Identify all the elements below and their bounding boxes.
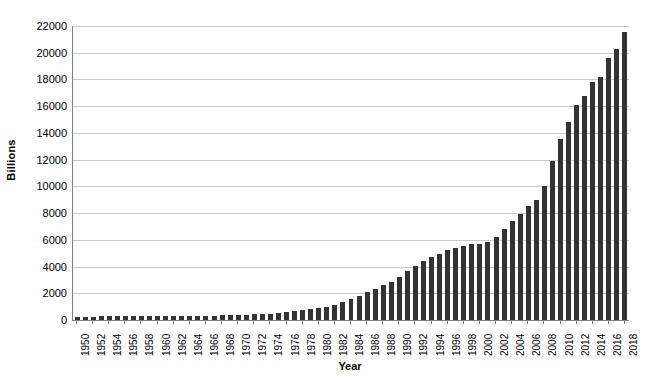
bar xyxy=(300,310,305,320)
y-axis-tick-label: 16000 xyxy=(36,100,67,112)
x-axis-tick-label: 1962 xyxy=(177,334,188,356)
bar xyxy=(518,214,523,320)
bar xyxy=(349,299,354,320)
y-axis-tick-label: 0 xyxy=(61,314,67,326)
x-axis-tick-label: 2008 xyxy=(547,334,558,356)
x-axis-tick-label: 1994 xyxy=(435,334,446,356)
x-axis-tick-label: 1980 xyxy=(322,334,333,356)
bar xyxy=(437,254,442,320)
x-axis-tick-label: 1956 xyxy=(128,334,139,356)
x-axis-tick-labels: 1950195219541956195819601962196419661968… xyxy=(72,324,628,358)
x-axis-tick-label: 1966 xyxy=(209,334,220,356)
y-axis-tick-label: 4000 xyxy=(43,261,67,273)
x-axis-tick-label: 2010 xyxy=(564,334,575,356)
bar xyxy=(324,307,329,320)
x-axis-tick-label: 1996 xyxy=(451,334,462,356)
x-axis-tick-label: 1982 xyxy=(338,334,349,356)
bar xyxy=(381,285,386,320)
bar xyxy=(284,312,289,320)
y-axis-tick-label: 14000 xyxy=(36,127,67,139)
x-axis-tick-label: 1976 xyxy=(290,334,301,356)
bar xyxy=(558,139,563,320)
bar xyxy=(574,105,579,320)
bar xyxy=(598,77,603,320)
bar xyxy=(373,289,378,320)
x-axis-title: Year xyxy=(72,360,628,372)
bar xyxy=(389,282,394,320)
x-axis-tick-label: 2004 xyxy=(515,334,526,356)
bar xyxy=(445,250,450,320)
bar xyxy=(534,200,539,320)
bar xyxy=(606,58,611,320)
x-axis-tick-label: 1984 xyxy=(354,334,365,356)
x-axis-tick-label: 1968 xyxy=(225,334,236,356)
bar xyxy=(365,292,370,320)
x-axis-tick-label: 2000 xyxy=(483,334,494,356)
y-axis-tick-label: 8000 xyxy=(43,207,67,219)
bar xyxy=(292,311,297,320)
x-axis-tick-label: 1964 xyxy=(193,334,204,356)
x-axis-tick-label: 2016 xyxy=(612,334,623,356)
bars-layer xyxy=(73,26,629,320)
bar xyxy=(429,257,434,320)
bar xyxy=(622,32,627,320)
x-axis-tick-label: 1970 xyxy=(241,334,252,356)
bar xyxy=(357,296,362,320)
bar xyxy=(308,309,313,320)
bar xyxy=(582,96,587,320)
x-axis-tick-label: 1990 xyxy=(402,334,413,356)
x-axis-tick-label: 1972 xyxy=(257,334,268,356)
bar xyxy=(461,246,466,320)
plot-area xyxy=(72,26,629,321)
x-axis-tick-label: 2018 xyxy=(628,334,639,356)
x-axis-tick-label: 1988 xyxy=(386,334,397,356)
bar xyxy=(590,82,595,320)
bar xyxy=(453,248,458,320)
y-axis-tick-label: 10000 xyxy=(36,180,67,192)
y-axis-tick-label: 12000 xyxy=(36,154,67,166)
bar xyxy=(477,244,482,320)
bar xyxy=(405,271,410,320)
x-axis-tick-label: 1978 xyxy=(306,334,317,356)
y-axis-tick-label: 18000 xyxy=(36,73,67,85)
x-axis-tick-label: 1986 xyxy=(370,334,381,356)
x-axis-tick-label: 1954 xyxy=(112,334,123,356)
bar xyxy=(614,49,619,320)
bar xyxy=(485,242,490,320)
bar xyxy=(413,266,418,320)
x-axis-tick-label: 2012 xyxy=(580,334,591,356)
x-axis-tick-label: 1950 xyxy=(80,334,91,356)
y-axis-tick-label: 2000 xyxy=(43,287,67,299)
bar xyxy=(340,302,345,320)
x-axis-tick-label: 1992 xyxy=(418,334,429,356)
bar xyxy=(502,229,507,320)
x-axis-tick-label: 1952 xyxy=(96,334,107,356)
bar xyxy=(469,244,474,320)
x-axis-tick-label: 1974 xyxy=(273,334,284,356)
bar xyxy=(397,277,402,320)
bar-chart: Billions 0200040006000800010000120001400… xyxy=(0,0,645,385)
x-axis-tick-label: 2014 xyxy=(596,334,607,356)
x-axis-tick-label: 1958 xyxy=(144,334,155,356)
bar xyxy=(421,261,426,320)
bar xyxy=(550,161,555,320)
x-axis-tick-label: 2002 xyxy=(499,334,510,356)
bar xyxy=(276,313,281,320)
bar xyxy=(494,237,499,320)
x-axis-tick-label: 2006 xyxy=(531,334,542,356)
y-axis-tick-label: 22000 xyxy=(36,20,67,32)
y-axis-tick-label: 20000 xyxy=(36,47,67,59)
bar xyxy=(510,221,515,320)
bar xyxy=(332,305,337,320)
x-axis-tick-label: 1960 xyxy=(161,334,172,356)
x-axis-tick-label: 1998 xyxy=(467,334,478,356)
bar xyxy=(526,206,531,320)
y-axis-tick-labels: 0200040006000800010000120001400016000180… xyxy=(20,26,70,320)
bar xyxy=(316,308,321,320)
y-axis-tick-label: 6000 xyxy=(43,234,67,246)
bar xyxy=(542,186,547,320)
bar xyxy=(566,122,571,320)
y-axis-title: Billions xyxy=(0,0,22,320)
y-axis-title-label: Billions xyxy=(5,139,17,180)
